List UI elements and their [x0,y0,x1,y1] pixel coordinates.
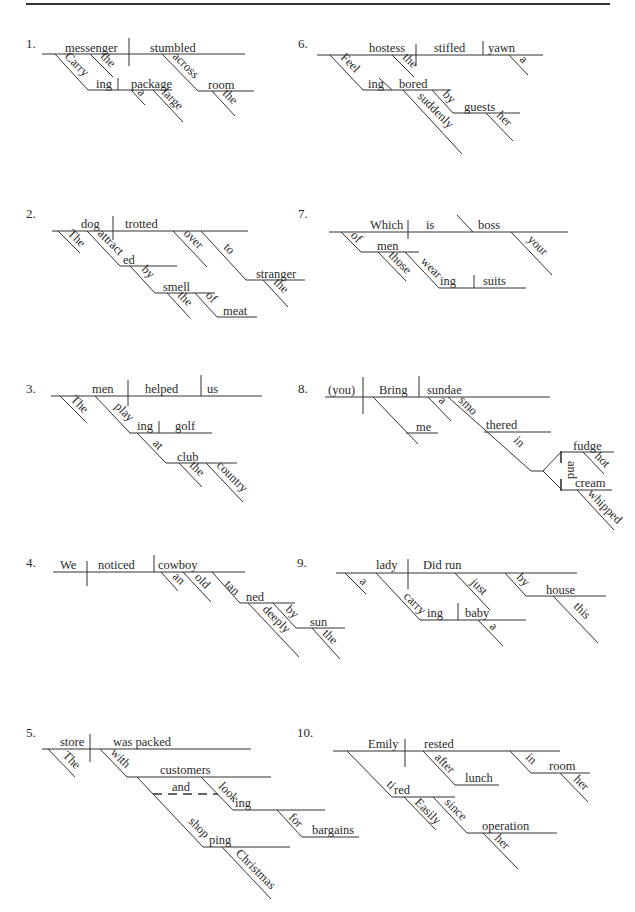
modifier-word: Christmas [233,846,279,892]
adverb-word: just [467,575,491,599]
verb-word: Did run [423,558,462,572]
modifier-word: a [357,574,371,588]
diagram-5: 5. store was packed The with customers a… [26,725,359,899]
preposition-word: to [221,240,238,257]
diagram-1: 1. messenger stumbled the Carry ing pack… [26,36,254,122]
verb-word: stifled [434,41,466,55]
participle-ending: ing [427,606,444,620]
participle-ending: ing [368,77,385,91]
participle-ending: ing [96,77,113,91]
prep-object-word: fudge [573,439,602,453]
participle-ending: ned [246,590,265,604]
preposition-word: at [150,436,167,453]
modifier-word: old [192,570,214,592]
diagram-10: 10. Emily rested ti red Easily since ope… [297,725,593,869]
item-number: 4. [26,555,36,570]
verb-word: helped [145,382,179,396]
item-number: 6. [298,36,308,51]
modifier-word: a [517,52,531,66]
preposition-word: after [432,750,459,777]
prep-object-word: cream [575,476,606,490]
diagram-8: 8. (you) Bring sundae me a smo thered in… [298,376,626,530]
diagram-7: 7. Which is boss your of men those wear … [298,206,568,288]
subject-word: hostess [369,41,405,55]
item-number: 1. [26,36,36,51]
item-number: 7. [298,206,308,221]
verb-word: rested [424,737,455,751]
item-number: 8. [298,381,308,396]
subject-word: store [60,735,85,749]
diagram-page: 1. messenger stumbled the Carry ing pack… [0,0,635,912]
prep-object-word: meat [223,304,248,318]
diagram-2: 2. dog trotted The attract ed by smell t… [26,206,305,318]
subject-word: dog [81,217,101,231]
participle-object: suits [483,274,506,288]
modifier-word: her [571,772,593,794]
prep-object-word: guests [464,100,495,114]
prep-object-word: sun [310,615,328,629]
adverb-word: Easily [412,795,445,828]
participle-ending: ed [123,253,136,267]
participle-ending: red [394,783,411,797]
modifier-word: the [320,626,341,647]
prep-object-word: bargains [312,823,354,837]
preposition-word: for [286,810,307,831]
diagram-4: 4. We noticed cowboy an old tan ned deep… [26,555,345,659]
preposition-word: in [511,433,528,450]
participle-ending: ping [209,833,232,847]
participle-stem: play [112,399,138,425]
modifier-word: her [494,108,516,130]
subject-word: Which [370,218,404,232]
subject-word: We [60,558,77,572]
participle-object: golf [175,419,196,433]
complement-word: boss [478,218,500,232]
diagram-6: 6. hostess stifled yawn the a Feel ing b… [298,36,543,154]
prep-object-word: customers [160,763,211,777]
subject-word: lady [376,558,398,572]
participle-ending: ing [137,419,154,433]
item-number: 5. [26,725,36,740]
prep-object-word: lunch [465,771,494,785]
prep-object-word: operation [482,819,530,833]
verb-word: was packed [113,735,172,749]
diagram-3: 3. men helped us The play ing golf at cl… [26,375,262,502]
preposition-word: in [523,750,540,767]
adverb-word: over [181,226,207,252]
verb-word: stumbled [150,41,197,55]
object-word: yawn [488,41,516,55]
participle-ending: ing [235,796,252,810]
modifier-word: her [492,831,514,853]
verb-word: is [426,218,434,232]
item-number: 9. [297,555,307,570]
item-number: 2. [26,206,36,221]
preposition-word: of [348,228,366,246]
verb-word: trotted [125,217,158,231]
item-number: 3. [26,381,36,396]
modifier-word: your [525,232,552,259]
preposition-word: since [442,795,470,823]
indirect-object-word: me [416,420,432,434]
item-number: 10. [297,725,313,740]
subject-word: (you) [328,383,355,397]
subject-word: men [92,382,114,396]
modifier-word: The [60,748,84,772]
verb-word: Bring [379,383,408,397]
verb-word: noticed [98,558,136,572]
participle-ending: ing [440,274,457,288]
prep-object-word: room [549,759,576,773]
modifier-word: those [386,248,415,277]
conjunction-word: and [172,780,191,794]
prep-object-word: house [546,583,576,597]
participle-stem: tan [222,577,243,598]
participle-object: baby [465,606,490,620]
preposition-word: of [203,288,221,306]
subject-word: Emily [368,737,399,751]
modifier-word: a [487,619,501,633]
participle-stem: Feel [338,50,363,75]
participle-ending: thered [486,418,518,432]
diagram-9: 9. lady Did run a carry ing baby a just … [297,555,606,646]
object-word: us [207,382,218,396]
